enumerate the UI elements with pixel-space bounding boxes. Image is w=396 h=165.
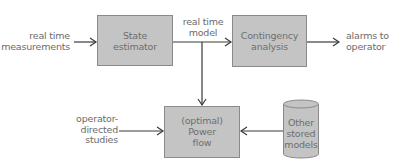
label-line: model bbox=[180, 28, 226, 39]
label-line: real time bbox=[1, 31, 70, 42]
state-estimator-label: State estimator bbox=[97, 30, 173, 52]
operator-directed-studies-label: operator- directed studies bbox=[76, 114, 118, 146]
label-line: estimator bbox=[97, 41, 173, 52]
label-line: real time bbox=[180, 17, 226, 28]
real-time-model-label: real time model bbox=[180, 17, 226, 38]
label-line: stored bbox=[283, 128, 319, 139]
label-line: Contingency bbox=[232, 30, 307, 41]
label-line: State bbox=[97, 30, 173, 41]
label-line: measurements bbox=[1, 42, 70, 53]
label-line: analysis bbox=[232, 41, 307, 52]
label-line: studies bbox=[76, 135, 118, 146]
label-line: models bbox=[283, 139, 319, 150]
label-line: Other bbox=[283, 117, 319, 128]
real-time-measurements-label: real time measurements bbox=[1, 31, 70, 52]
power-flow-label: (optimal) Power flow bbox=[164, 115, 240, 148]
label-line: operator bbox=[346, 42, 389, 53]
stored-models-label: Other stored models bbox=[283, 117, 319, 150]
label-line: (optimal) bbox=[164, 115, 240, 126]
label-line: Power bbox=[164, 126, 240, 137]
label-line: alarms to bbox=[346, 31, 389, 42]
alarms-to-operator-label: alarms to operator bbox=[346, 31, 389, 52]
label-line: flow bbox=[164, 137, 240, 148]
label-line: operator- bbox=[76, 114, 118, 125]
contingency-analysis-label: Contingency analysis bbox=[232, 30, 307, 52]
